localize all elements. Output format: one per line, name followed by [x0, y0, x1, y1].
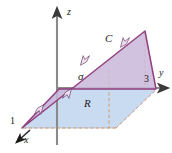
z-axis-label: z [67, 7, 71, 17]
curve-C-label: C [105, 33, 112, 44]
figure-canvas: z y x 3 1 σ R C [0, 0, 172, 153]
x-axis-tick-1: 1 [10, 116, 15, 126]
x-axis-label: x [24, 135, 28, 145]
surface-sigma-label: σ [78, 71, 83, 82]
region-R-label: R [84, 98, 91, 109]
y-axis-label: y [159, 68, 163, 78]
y-axis-tick-3: 3 [144, 74, 149, 84]
curve-arrow-upper-left [77, 53, 92, 67]
